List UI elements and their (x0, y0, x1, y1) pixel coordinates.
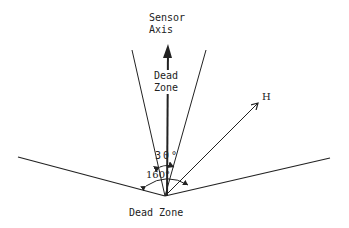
sensor-axis-label: Sensor Axis (149, 12, 185, 36)
boundary-right (165, 158, 330, 196)
boundary-left (18, 157, 165, 196)
h-vector-label: H (262, 91, 271, 103)
dead-zone-bottom-label: Dead Zone (129, 207, 183, 219)
dead-zone-top-label: Dead Zone (154, 70, 178, 94)
sensor-axis-arrowhead (163, 44, 172, 58)
cone-angle-label: 30° (155, 150, 179, 162)
wide-angle-label: 160° (146, 169, 170, 181)
